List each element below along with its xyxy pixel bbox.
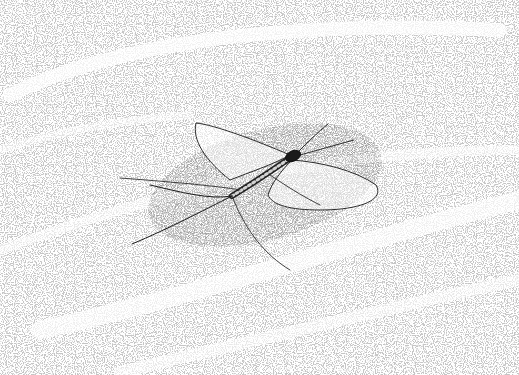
illustration-canvas <box>0 0 519 375</box>
mayfly-illustration <box>0 0 519 375</box>
